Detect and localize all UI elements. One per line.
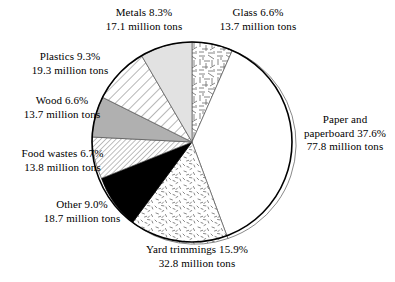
pie-label-yard-trimmings: Yard trimmings 15.9% 32.8 million tons bbox=[122, 243, 272, 270]
pie-label-food-wastes: Food wastes 6.7% 13.8 million tons bbox=[0, 147, 125, 174]
pie-label-glass: Glass 6.6% 13.7 million tons bbox=[198, 6, 318, 33]
pie-label-metals: Metals 8.3% 17.1 million tons bbox=[84, 6, 204, 33]
pie-label-metals-percent: Metals 8.3% bbox=[84, 6, 204, 20]
pie-label-paper-percent: paperboard 37.6% bbox=[295, 127, 395, 141]
pie-label-paper-name: Paper and bbox=[295, 113, 395, 127]
pie-label-paper-and-paperboard: Paper and paperboard 37.6% 77.8 million … bbox=[295, 113, 395, 154]
pie-label-plastics-tons: 19.3 million tons bbox=[10, 64, 130, 78]
pie-label-wood-tons: 13.7 million tons bbox=[2, 108, 122, 122]
pie-label-food-wastes-tons: 13.8 million tons bbox=[0, 161, 125, 175]
pie-label-food-wastes-percent: Food wastes 6.7% bbox=[0, 147, 125, 161]
pie-label-other: Other 9.0% 18.7 million tons bbox=[22, 198, 142, 225]
pie-label-plastics-percent: Plastics 9.3% bbox=[10, 50, 130, 64]
pie-label-wood: Wood 6.6% 13.7 million tons bbox=[2, 94, 122, 121]
pie-label-glass-tons: 13.7 million tons bbox=[198, 20, 318, 34]
pie-label-metals-tons: 17.1 million tons bbox=[84, 20, 204, 34]
pie-label-glass-percent: Glass 6.6% bbox=[198, 6, 318, 20]
pie-label-other-tons: 18.7 million tons bbox=[22, 212, 142, 226]
pie-label-other-percent: Other 9.0% bbox=[22, 198, 142, 212]
pie-label-paper-tons: 77.8 million tons bbox=[295, 140, 395, 154]
pie-label-plastics: Plastics 9.3% 19.3 million tons bbox=[10, 50, 130, 77]
pie-label-yard-trimmings-tons: 32.8 million tons bbox=[122, 257, 272, 271]
pie-label-wood-percent: Wood 6.6% bbox=[2, 94, 122, 108]
pie-label-yard-trimmings-percent: Yard trimmings 15.9% bbox=[122, 243, 272, 257]
pie-chart: Metals 8.3% 17.1 million tons Glass 6.6%… bbox=[0, 0, 395, 282]
